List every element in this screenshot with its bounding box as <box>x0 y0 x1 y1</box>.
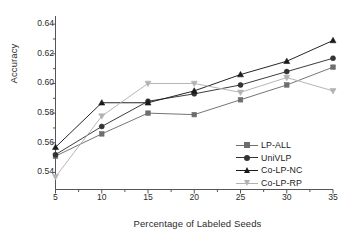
legend-swatch <box>236 139 258 151</box>
legend-label: LP-ALL <box>258 140 291 150</box>
data-point-marker <box>238 82 243 87</box>
legend-item-lp-all[interactable]: LP-ALL <box>236 139 336 152</box>
data-point-marker <box>238 97 243 102</box>
legend-marker-triangle-up-icon <box>244 167 250 173</box>
data-point-marker <box>284 83 289 88</box>
data-point-marker <box>331 65 336 70</box>
data-point-marker <box>331 56 336 61</box>
data-point-marker <box>284 69 289 74</box>
legend-swatch <box>236 152 258 164</box>
legend-swatch <box>236 177 258 189</box>
legend-item-co-lp-rp[interactable]: Co-LP-RP <box>236 177 336 190</box>
legend-swatch <box>236 164 258 176</box>
legend-marker-square-icon <box>244 142 250 148</box>
data-point-marker <box>238 90 244 95</box>
data-point-marker <box>99 132 104 137</box>
data-point-marker <box>146 111 151 116</box>
plot-area <box>0 0 344 241</box>
accuracy-line-chart: Accuracy Percentage of Labeled Seeds 0.5… <box>0 0 344 241</box>
legend-item-co-lp-nc[interactable]: Co-LP-NC <box>236 164 336 177</box>
legend-label: Co-LP-NC <box>258 165 302 175</box>
data-point-marker <box>330 37 336 42</box>
legend-marker-circle-icon <box>244 155 250 161</box>
legend-item-univlp[interactable]: UniVLP <box>236 152 336 165</box>
data-point-marker <box>99 124 104 129</box>
legend-marker-triangle-down-icon <box>244 180 250 186</box>
legend-label: UniVLP <box>258 153 291 163</box>
series-co-lp-nc <box>53 37 337 149</box>
data-point-marker <box>192 112 197 117</box>
legend-label: Co-LP-RP <box>258 178 302 188</box>
data-point-marker <box>330 89 336 94</box>
data-point-marker <box>53 175 59 180</box>
chart-legend: LP-ALLUniVLPCo-LP-NCCo-LP-RP <box>236 139 336 189</box>
data-point-marker <box>53 152 58 157</box>
data-point-marker <box>284 58 290 63</box>
